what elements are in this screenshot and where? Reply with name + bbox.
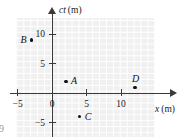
page-corner-mark: 9	[0, 123, 4, 134]
ct-axis-tick	[49, 63, 56, 64]
ct-axis-tick	[49, 34, 56, 35]
x-axis-line	[10, 93, 172, 94]
data-point-d	[133, 86, 136, 89]
x-axis-tick	[52, 89, 53, 96]
x-axis-tick	[17, 89, 18, 96]
ct-axis-arrow-icon	[48, 7, 56, 14]
x-axis-tick-label: 5	[76, 99, 98, 109]
data-point-b	[30, 38, 33, 41]
x-axis-tick-label: −5	[7, 99, 29, 109]
data-point-label-d: D	[132, 74, 139, 84]
ct-axis-label-var: ct	[59, 5, 66, 15]
ct-axis-label: ct(m)	[59, 5, 82, 16]
ct-axis-tick-label: 5	[23, 59, 45, 69]
x-axis-tick	[121, 89, 122, 96]
ct-axis-line	[52, 12, 53, 137]
data-point-a	[64, 80, 67, 83]
x-axis-tick-label: 10	[110, 99, 132, 109]
ct-axis-label-unit: (m)	[68, 5, 82, 15]
data-point-label-b: B	[20, 35, 26, 45]
x-axis-label-var: x	[155, 104, 159, 114]
x-axis-arrow-icon	[170, 89, 177, 97]
x-axis-label-unit: (m)	[161, 104, 175, 114]
data-point-label-c: C	[85, 112, 92, 122]
ct-axis-tick	[49, 122, 56, 123]
x-axis-label: x(m)	[155, 104, 175, 115]
data-point-label-a: A	[71, 76, 77, 86]
x-axis-tick-label: 0	[41, 99, 63, 109]
spacetime-diagram-figure: −50510105−5 x(m) ct(m) ABCD 9	[0, 0, 187, 137]
x-axis-tick	[86, 89, 87, 96]
ct-axis-tick-label: −5	[23, 118, 45, 128]
